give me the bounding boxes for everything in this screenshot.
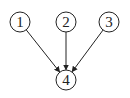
node-label: 1 <box>16 14 24 30</box>
node-label: 3 <box>105 14 113 30</box>
node-2: 2 <box>56 12 76 32</box>
edges <box>26 30 103 72</box>
node-4: 4 <box>56 70 76 90</box>
graph-diagram: 1234 <box>0 0 130 98</box>
nodes: 1234 <box>10 12 119 90</box>
node-3: 3 <box>99 12 119 32</box>
node-label: 2 <box>62 14 70 30</box>
node-label: 4 <box>62 72 70 88</box>
edge-3-to-4 <box>72 30 103 72</box>
graph-svg: 1234 <box>0 0 130 98</box>
node-1: 1 <box>10 12 30 32</box>
edge-1-to-4 <box>26 30 59 72</box>
